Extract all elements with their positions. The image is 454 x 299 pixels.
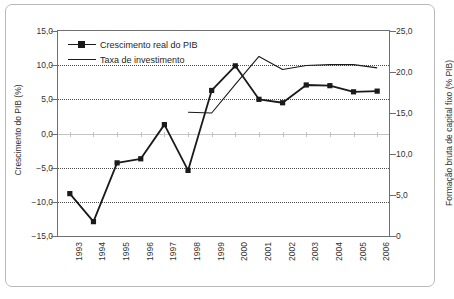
y-axis-right-tick-mark [390,154,396,155]
series-line-gdp [70,66,377,222]
series-marker-gdp [256,97,261,102]
y-axis-right-tick-mark [390,72,396,73]
y-axis-right-tick-mark [390,236,396,237]
y-axis-left-tick-mark [51,99,57,100]
x-axis-tick-label: 1999 [216,242,226,261]
legend-item-investment: Taxa de investimento [68,53,198,66]
legend-label-investment: Taxa de investimento [100,55,185,65]
x-axis-tick-label: 1993 [74,242,84,261]
series-marker-gdp [67,191,72,196]
x-axis-tick-label: 2003 [310,242,320,261]
y-axis-right-tick-mark [390,113,396,114]
series-marker-gdp [91,219,96,224]
y-axis-left-tick-label: −10,0 [31,197,53,207]
series-marker-gdp [304,82,309,87]
series-marker-gdp [280,100,285,105]
series-marker-gdp [138,156,143,161]
series-marker-gdp [185,168,190,173]
y-axis-right-tick-mark [390,31,396,32]
x-axis-tick-label: 2002 [287,242,297,261]
y-axis-right-tick-label: 10,0 [396,149,413,159]
y-axis-left-tick-mark [51,134,57,135]
series-marker-gdp [162,122,167,127]
series-marker-gdp [233,63,238,68]
y-axis-left-tick-mark [51,202,57,203]
y-axis-right-tick-label: 0 [396,231,401,241]
x-axis-tick-label: 1998 [192,242,202,261]
y-axis-left-tick-mark [51,168,57,169]
series-marker-gdp [209,88,214,93]
y-axis-left-tick-mark [51,65,57,66]
x-axis-tick-label: 1996 [145,242,155,261]
x-axis-tick-label: 1994 [97,242,107,261]
legend-item-gdp: Crescimento real do PIB [68,38,198,51]
y-axis-right-tick-label: 5,0 [396,190,408,200]
legend-label-gdp: Crescimento real do PIB [100,40,198,50]
y-axis-left-tick-label: −15,0 [31,231,53,241]
y-axis-right-tick-label: 15,0 [396,108,413,118]
legend-symbol-line-with-square-marker [68,39,96,51]
y-axis-right-tick-mark [390,195,396,196]
x-axis-tick-label: 2004 [334,242,344,261]
legend-symbol-plain-line [68,54,96,66]
y-axis-right-ticks: 25,020,015,010,05,00 [396,0,436,299]
x-axis-tick-label: 2001 [263,242,273,261]
series-marker-gdp [115,160,120,165]
y-axis-right-tick-label: 20,0 [396,67,413,77]
y-axis-left-ticks: 15,010,05,00,0−5,0−10,0−15,0 [10,0,53,299]
series-marker-gdp [327,83,332,88]
series-marker-gdp [375,89,380,94]
x-axis-tick-label: 2005 [358,242,368,261]
chart-legend: Crescimento real do PIB Taxa de investim… [68,38,198,68]
x-axis-tick-label: 1997 [168,242,178,261]
y-axis-right-title: Formação bruta de capital fixo (% PIB) [444,33,454,233]
x-axis-tick-label: 2000 [239,242,249,261]
y-axis-right-tick-label: 25,0 [396,26,413,36]
series-marker-gdp [351,89,356,94]
x-axis-tick-label: 2006 [381,242,391,261]
x-axis-tick-label: 1995 [121,242,131,261]
y-axis-left-tick-mark [51,236,57,237]
y-axis-left-tick-mark [51,31,57,32]
